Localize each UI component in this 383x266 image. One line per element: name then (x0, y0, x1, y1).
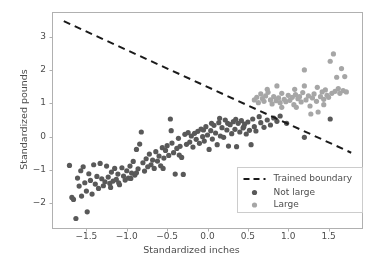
y-tick-label: −1 (16, 164, 46, 174)
y-tick-label: 2 (16, 64, 46, 74)
y-tick-label: −2 (16, 197, 46, 207)
x-tick-label: −1.5 (66, 231, 106, 241)
x-tick-label: −1.0 (107, 231, 147, 241)
x-tick-label: 0.0 (188, 231, 228, 241)
x-tick-label: 0.5 (228, 231, 268, 241)
plot-canvas (0, 0, 383, 266)
x-tick-label: 1.5 (309, 231, 349, 241)
legend-label-large: Large (274, 199, 299, 209)
x-tick-label: −0.5 (147, 231, 187, 241)
y-tick-label: 0 (16, 131, 46, 141)
legend-label-trained-boundary: Trained boundary (274, 173, 353, 183)
legend-label-not-large: Not large (274, 187, 315, 197)
y-tick-label: 3 (16, 31, 46, 41)
scatter-plot-figure: Standardized inches Standardized pounds … (0, 0, 383, 266)
x-axis-label: Standardized inches (0, 244, 383, 255)
x-tick-label: 1.0 (268, 231, 308, 241)
y-tick-label: 1 (16, 97, 46, 107)
